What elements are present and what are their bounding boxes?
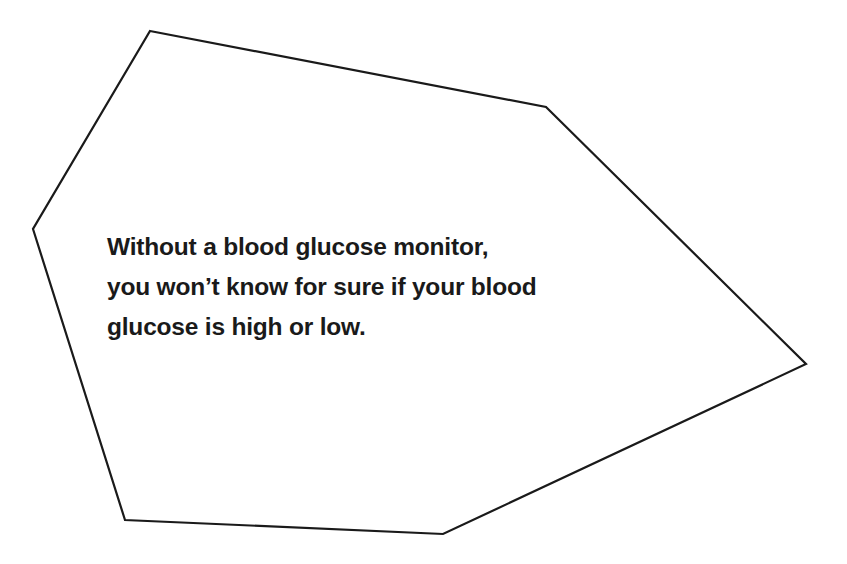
callout-text: Without a blood glucose monitor, you won…	[107, 227, 667, 347]
callout-line-2: you won’t know for sure if your blood	[107, 267, 667, 307]
callout-line-3: glucose is high or low.	[107, 307, 667, 347]
callout-line-1: Without a blood glucose monitor,	[107, 227, 667, 267]
